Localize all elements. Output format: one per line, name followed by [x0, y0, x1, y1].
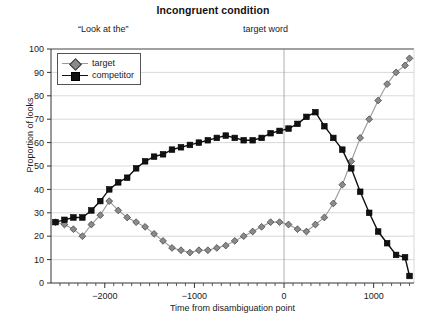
- chart-plot-area: 0102030405060708090100−2000−100001000: [0, 0, 426, 329]
- data-point-target: [330, 200, 337, 207]
- data-point-competitor: [348, 166, 354, 172]
- y-tick-label: 80: [34, 91, 44, 101]
- data-point-target: [258, 223, 265, 230]
- data-point-competitor: [286, 126, 292, 132]
- data-point-competitor: [187, 142, 193, 148]
- series-group: [52, 55, 413, 279]
- data-point-competitor: [62, 217, 68, 223]
- data-point-competitor: [331, 135, 337, 141]
- legend-item-target: target: [62, 57, 134, 69]
- data-point-target: [339, 181, 346, 188]
- data-point-target: [240, 233, 247, 240]
- series-line-target: [55, 58, 409, 252]
- data-point-competitor: [97, 198, 103, 204]
- data-point-competitor: [402, 254, 408, 260]
- y-tick-label: 60: [34, 138, 44, 148]
- y-tick-label: 10: [34, 255, 44, 265]
- data-point-competitor: [160, 152, 166, 158]
- data-point-competitor: [71, 215, 77, 221]
- data-point-target: [133, 219, 140, 226]
- data-point-target: [294, 226, 301, 233]
- data-point-competitor: [304, 114, 310, 120]
- chart-legend: target competitor: [57, 53, 141, 85]
- y-axis-label: Proportion of looks: [25, 55, 35, 215]
- y-tick-label: 90: [34, 68, 44, 78]
- legend-label-competitor: competitor: [92, 70, 134, 80]
- x-tick-label: 1000: [364, 291, 384, 301]
- y-tick-label: 0: [39, 278, 44, 288]
- annotation-target-word: target word: [243, 24, 288, 34]
- data-point-target: [406, 55, 413, 62]
- data-point-competitor: [322, 123, 328, 129]
- y-tick-label: 30: [34, 208, 44, 218]
- data-point-competitor: [53, 219, 59, 225]
- data-point-competitor: [339, 147, 345, 153]
- data-point-competitor: [142, 159, 148, 165]
- legend-marker-target: [62, 58, 88, 69]
- data-point-competitor: [169, 147, 175, 153]
- x-tick-label: 0: [282, 291, 287, 301]
- data-point-competitor: [295, 121, 301, 127]
- data-point-competitor: [124, 175, 130, 181]
- data-point-competitor: [205, 137, 211, 143]
- data-point-competitor: [106, 187, 112, 193]
- y-tick-label: 100: [29, 44, 44, 54]
- data-point-competitor: [214, 135, 220, 141]
- data-point-competitor: [277, 128, 283, 134]
- data-point-target: [249, 228, 256, 235]
- data-point-competitor: [196, 140, 202, 146]
- data-point-competitor: [80, 215, 86, 221]
- data-point-competitor: [375, 229, 381, 235]
- data-point-competitor: [250, 137, 256, 143]
- x-tick-label: −2000: [92, 291, 117, 301]
- y-tick-label: 70: [34, 114, 44, 124]
- data-point-target: [285, 221, 292, 228]
- data-point-competitor: [259, 135, 265, 141]
- data-point-target: [187, 249, 194, 256]
- data-point-target: [276, 219, 283, 226]
- data-point-competitor: [89, 208, 95, 214]
- y-tick-label: 50: [34, 161, 44, 171]
- chart-figure: Incongruent condition “Look at the” targ…: [0, 0, 426, 329]
- x-tick-label: −1000: [182, 291, 207, 301]
- legend-item-competitor: competitor: [62, 69, 134, 81]
- data-point-target: [375, 97, 382, 104]
- x-axis-label: Time from disambiguation point: [51, 303, 414, 313]
- y-tick-label: 40: [34, 185, 44, 195]
- data-point-competitor: [115, 180, 121, 186]
- legend-marker-competitor: [62, 70, 88, 81]
- legend-label-target: target: [92, 58, 115, 68]
- data-point-target: [231, 237, 238, 244]
- annotation-look-at-the: “Look at the”: [78, 24, 129, 34]
- y-tick-label: 20: [34, 231, 44, 241]
- data-point-competitor: [241, 137, 247, 143]
- data-point-competitor: [384, 240, 390, 246]
- data-point-competitor: [407, 273, 413, 279]
- data-point-competitor: [178, 144, 184, 150]
- data-point-target: [267, 219, 274, 226]
- data-point-competitor: [151, 154, 157, 160]
- data-point-competitor: [223, 133, 229, 139]
- data-point-competitor: [393, 252, 399, 258]
- data-point-target: [357, 135, 364, 142]
- data-point-competitor: [357, 189, 363, 195]
- data-point-competitor: [366, 210, 372, 216]
- data-point-competitor: [268, 130, 274, 136]
- chart-title: Incongruent condition: [0, 4, 426, 16]
- data-point-target: [366, 116, 373, 123]
- data-point-target: [213, 245, 220, 252]
- data-point-target: [178, 247, 185, 254]
- data-point-target: [195, 247, 202, 254]
- data-point-target: [222, 242, 229, 249]
- data-point-competitor: [313, 109, 319, 115]
- data-point-competitor: [133, 166, 139, 172]
- data-point-target: [204, 247, 211, 254]
- data-point-competitor: [232, 135, 238, 141]
